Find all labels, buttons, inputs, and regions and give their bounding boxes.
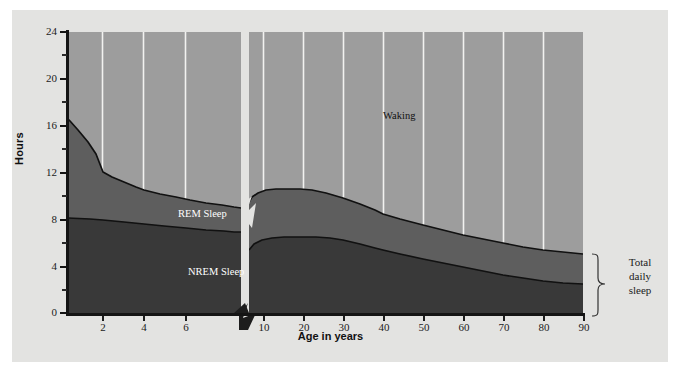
y-tick-label: 24 [10, 25, 57, 37]
y-tick-label: 4 [10, 260, 57, 272]
x-axis-title: Age in years [0, 330, 679, 342]
total-sleep-bracket [588, 250, 610, 320]
y-tick-labels: 24 20 16 12 8 4 0 [10, 0, 57, 372]
bracket-line-2: daily [612, 269, 668, 283]
bracket-line-3: sleep [612, 283, 668, 297]
y-tick-label: 8 [10, 213, 57, 225]
y-tick-label: 0 [10, 306, 57, 318]
bracket-line-1: Total [612, 255, 668, 269]
y-tick-label: 12 [10, 166, 57, 178]
y-tick-label: 16 [10, 119, 57, 131]
total-daily-sleep-label: Total daily sleep [612, 255, 668, 297]
x-axis-title-text: Age in years [298, 330, 363, 342]
waking-label: Waking [383, 110, 415, 121]
rem-sleep-label: REM Sleep [178, 208, 227, 219]
y-tick-label: 20 [10, 72, 57, 84]
y-axis-title: Hours [13, 132, 25, 165]
sleep-chart-figure: 24 20 16 12 8 4 0 Hours 2 4 6 10 20 30 4… [0, 0, 679, 372]
nrem-sleep-label: NREM Sleep [188, 266, 244, 277]
